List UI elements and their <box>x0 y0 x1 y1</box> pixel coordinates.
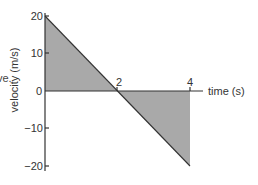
xtick-label-2: 2 <box>116 76 122 88</box>
ytick-label-0: 0 <box>36 85 42 97</box>
ytick-label-m20: −20 <box>24 160 43 172</box>
clipped-text-fragment: ve. <box>0 72 12 84</box>
x-axis-label: time (s) <box>208 85 245 97</box>
velocity-time-chart: 20 10 0 −10 −20 2 4 time (s) velocity (m… <box>0 0 258 185</box>
ytick-label-10: 10 <box>31 47 43 59</box>
xtick-label-4: 4 <box>187 76 193 88</box>
ytick-label-m10: −10 <box>24 122 43 134</box>
ytick-label-20: 20 <box>31 10 43 22</box>
